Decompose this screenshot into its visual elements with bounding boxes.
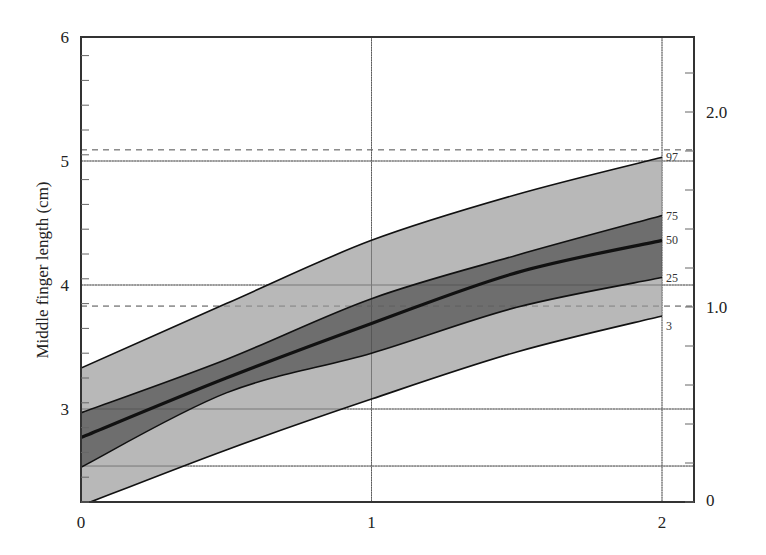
x-tick-label: 0 [77,513,86,532]
percentile-label-97: 97 [666,150,678,164]
percentile-label-3: 3 [666,319,672,333]
percentile-chart: 345601201.02.0 977550253 Middle finger l… [0,0,766,555]
x-tick-label: 2 [658,513,667,532]
y-tick-label: 5 [61,152,70,171]
y-axis-title: Middle finger length (cm) [33,181,52,358]
right-tick-label: 0 [706,491,715,510]
percentile-label-50: 50 [666,233,678,247]
y-tick-label: 3 [61,400,70,419]
y-tick-label: 6 [61,28,70,47]
right-tick-label: 1.0 [706,298,727,317]
x-tick-label: 1 [367,513,376,532]
right-tick-label: 2.0 [706,103,727,122]
percentile-label-75: 75 [666,209,678,223]
percentile-label-25: 25 [666,271,678,285]
y-tick-label: 4 [61,276,70,295]
